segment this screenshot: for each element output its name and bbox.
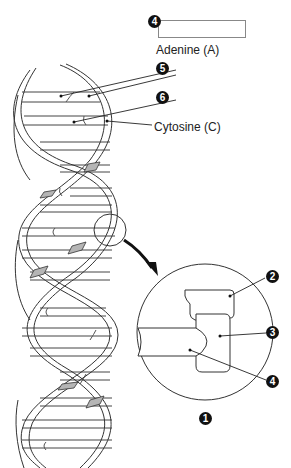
- marker-3: 3: [266, 326, 279, 339]
- marker-1: 1: [199, 412, 212, 425]
- label-adenine: Adenine (A): [156, 43, 219, 57]
- answer-box-4[interactable]: [158, 20, 246, 38]
- dna-helix-illustration: [0, 0, 291, 468]
- marker-4-bottom: 4: [266, 375, 279, 388]
- backbone-strand-a: [14, 70, 112, 468]
- magnifier-circle: [94, 214, 126, 246]
- label-cytosine: Cytosine (C): [154, 120, 221, 134]
- marker-2: 2: [266, 270, 279, 283]
- marker-4-top: 4: [148, 15, 161, 28]
- marker-5: 5: [156, 62, 169, 75]
- marker-6: 6: [156, 91, 169, 104]
- base-shape: [138, 328, 207, 356]
